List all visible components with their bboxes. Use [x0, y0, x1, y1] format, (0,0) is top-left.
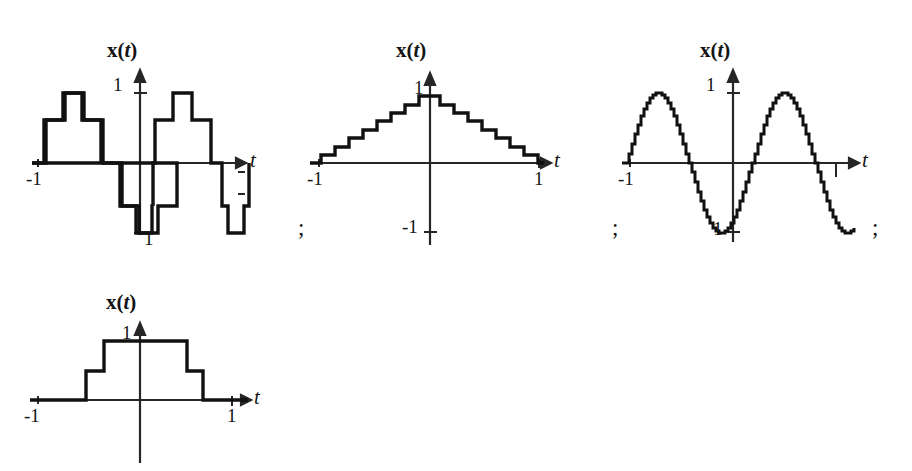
plot-1-y-axis-title: x(t) [107, 38, 137, 63]
plot-3-ylabel-pos-one: 1 [706, 74, 716, 96]
separator-after-plot-1: ; [298, 216, 304, 239]
plot-1-xlabel-neg-one: -1 [26, 168, 42, 190]
plot-staircase-triangle: x(t) 1 -1 -1 1 t [288, 20, 568, 260]
plot-staircase-trapezoid: x(t) 1 -1 1 t [0, 278, 280, 468]
plot-4-canvas [0, 278, 280, 468]
plot-3-x-axis-label: t [862, 148, 868, 173]
plot-3-xlabel-neg-one: -1 [618, 168, 634, 190]
plot-3-ylabel-neg-one: 1 [713, 218, 723, 240]
plot-2-ylabel-neg-one: -1 [402, 216, 418, 238]
plot-2-y-axis-arrow [425, 73, 435, 85]
plot-staircase-sine-coarse: x(t) 1 1 -1 t [0, 20, 270, 260]
plot-3-y-axis-title: x(t) [700, 38, 730, 63]
figure-sheet: x(t) 1 1 -1 t x(t) 1 -1 -1 1 t [0, 0, 912, 471]
plot-2-canvas [288, 20, 568, 260]
plot-3-x-axis-arrow [849, 158, 859, 168]
plot-1-ylabel-neg-one: 1 [144, 228, 154, 250]
plot-4-y-axis-title: x(t) [106, 290, 136, 315]
plot-4-y-axis-arrow [135, 323, 145, 335]
plot-4-xlabel-neg-one: -1 [24, 405, 40, 427]
plot-4-ylabel-pos-one: 1 [122, 322, 132, 344]
plot-1-x-axis-arrow [236, 158, 246, 168]
plot-1-ylabel-pos-one: 1 [113, 74, 123, 96]
separator-after-plot-2: ; [612, 216, 618, 239]
plot-4-xlabel-pos-one: 1 [227, 405, 237, 427]
plot-staircase-sine-fine: x(t) 1 1 -1 t [608, 20, 888, 260]
plot-2-x-axis-label: t [554, 148, 560, 173]
plot-2-xlabel-neg-one: -1 [307, 168, 323, 190]
plot-2-y-axis-title: x(t) [396, 38, 426, 63]
plot-3-canvas [608, 20, 888, 260]
plot-1-x-axis-label: t [250, 148, 256, 173]
plot-2-waveform [310, 96, 544, 163]
plot-4-x-axis-label: t [254, 385, 260, 410]
plot-2-xlabel-pos-one: 1 [534, 168, 544, 190]
plot-2-ylabel-pos-one: 1 [414, 77, 424, 99]
plot-1-y-axis-arrow [135, 70, 145, 82]
separator-after-plot-3: ; [872, 216, 878, 239]
plot-3-y-axis-arrow [728, 70, 738, 82]
